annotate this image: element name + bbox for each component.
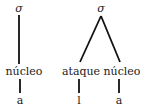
tree-1-root-sigma: σ xyxy=(15,2,23,15)
tree-2-nucleus-label: núcleo xyxy=(104,65,141,78)
tree-2-segment-a: a xyxy=(116,94,123,107)
tree-1-segment-a: a xyxy=(17,94,24,107)
tree-2-onset-label: ataque xyxy=(62,65,100,78)
tree-2: σ ataque núcleo l a xyxy=(62,2,141,107)
tree-1-nucleus-label: núcleo xyxy=(6,65,43,78)
tree-2-edge-root-nucleus xyxy=(101,16,120,62)
tree-2-edge-root-onset xyxy=(80,16,101,62)
tree-2-root-sigma: σ xyxy=(97,2,105,15)
tree-2-segment-l: l xyxy=(77,94,81,107)
tree-1: σ núcleo a xyxy=(6,2,43,107)
syllable-diagram: σ núcleo a σ ataque núcleo l a xyxy=(0,0,144,110)
